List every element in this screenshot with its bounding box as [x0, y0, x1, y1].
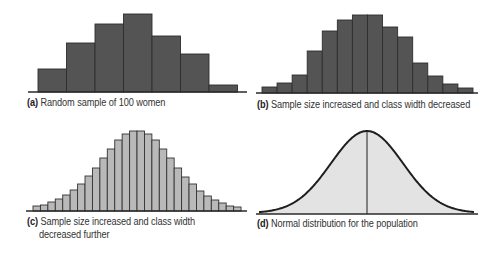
histogram-bar: [219, 203, 226, 211]
histogram-bar: [292, 75, 307, 93]
normal-curve-panel-d: [256, 131, 478, 214]
histogram-bar: [211, 200, 218, 211]
histogram-bar: [209, 85, 238, 92]
histogram-bar: [78, 184, 85, 211]
histogram-bar: [307, 51, 322, 93]
histogram-bar: [337, 20, 352, 93]
histogram-bar: [181, 54, 210, 92]
histogram-bar: [130, 131, 137, 211]
histogram-bar: [67, 43, 96, 92]
histogram-bar: [70, 190, 77, 211]
histogram-bar: [33, 206, 40, 211]
histogram-bar: [443, 84, 458, 93]
panel-letter-c: (c): [27, 216, 38, 227]
histogram-bar: [85, 176, 92, 211]
histogram-bar: [122, 134, 129, 211]
histogram-bar: [383, 27, 398, 93]
caption-text-c-line2: decreased further: [27, 228, 195, 241]
histogram-bar: [322, 31, 337, 93]
histogram-panel-c: [26, 131, 247, 211]
histogram-bar: [174, 168, 181, 211]
caption-d: (d) Normal distribution for the populati…: [257, 217, 418, 230]
histogram-bar: [152, 140, 159, 211]
histogram-bar: [352, 15, 367, 93]
histogram-bar: [398, 37, 413, 93]
histogram-bar: [167, 158, 174, 211]
histogram-bar: [189, 184, 196, 211]
histogram-bar: [92, 168, 99, 211]
histogram-bar: [40, 205, 47, 211]
histogram-bar: [277, 83, 292, 93]
histogram-bar: [413, 63, 428, 93]
caption-a: (a) Random sample of 100 women: [27, 96, 165, 109]
histogram-bar: [262, 87, 277, 93]
histogram-bar: [204, 196, 211, 211]
histogram-bar: [196, 191, 203, 211]
histogram-bar: [159, 149, 166, 211]
caption-text-c-line1: Sample size increased and class width: [40, 216, 195, 227]
histogram-bar: [182, 177, 189, 211]
histogram-bar: [63, 195, 70, 211]
histogram-bar: [115, 140, 122, 211]
histogram-panel-a: [28, 14, 247, 92]
histogram-bar: [226, 206, 233, 211]
histogram-bar: [107, 149, 114, 211]
panel-letter-a: (a): [27, 97, 38, 108]
histogram-panel-b: [256, 15, 478, 93]
histogram-bar: [458, 88, 473, 93]
histogram-bar: [100, 158, 107, 211]
histogram-bar: [95, 24, 124, 92]
caption-b: (b) Sample size increased and class widt…: [257, 98, 470, 111]
histogram-bar: [428, 76, 443, 93]
caption-text-d: Normal distribution for the population: [271, 218, 418, 229]
histogram-bar: [144, 134, 151, 211]
caption-c: (c) Sample size increased and class widt…: [27, 215, 195, 241]
panel-letter-d: (d): [257, 218, 268, 229]
histogram-bar: [55, 199, 62, 211]
histogram-bar: [152, 36, 181, 92]
histogram-bar: [38, 69, 67, 92]
histogram-bar: [48, 202, 55, 211]
histogram-bar: [137, 131, 144, 211]
caption-text-b: Sample size increased and class width de…: [271, 99, 470, 110]
caption-text-a: Random sample of 100 women: [40, 97, 165, 108]
histogram-bar: [367, 15, 382, 93]
histogram-bar: [124, 14, 153, 92]
panel-letter-b: (b): [257, 99, 268, 110]
